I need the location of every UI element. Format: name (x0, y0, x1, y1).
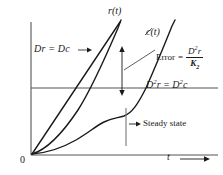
error-numerator: D2r (186, 45, 203, 56)
label-steady-state: Steady state (143, 119, 186, 128)
dr-dc-pointer-arrow (78, 48, 92, 53)
error-denominator: K2 (188, 59, 201, 70)
error-equals-sign: = (178, 53, 183, 62)
d2-mid: r = D (157, 79, 180, 90)
error-fraction: D2r K2 (186, 45, 203, 70)
label-first-derivative-equality: Dr = Dc (34, 44, 70, 54)
error-word: Error (156, 53, 175, 62)
steady-state-arrow (129, 122, 141, 127)
curve-label-r-of-t: r(t) (108, 6, 121, 16)
error-leader-line (124, 50, 155, 70)
curve-label-c-of-t: c(t) (146, 27, 160, 37)
label-steady-state-error: Error = D2r K2 (156, 45, 203, 70)
axis-origin-label: 0 (20, 155, 25, 165)
response-curve-figure: r(t) c(t) Dr = Dc D2r = D2c Error = D2r … (0, 0, 223, 175)
plot-canvas (0, 0, 223, 175)
d2-suffix: c (183, 79, 187, 90)
error-num-r: r (198, 46, 202, 56)
label-second-derivative-equality: D2r = D2c (146, 79, 187, 90)
t-axis-arrow (180, 156, 210, 162)
error-den-subscript: 2 (196, 64, 199, 70)
x-axis-label-t: t (167, 152, 170, 162)
